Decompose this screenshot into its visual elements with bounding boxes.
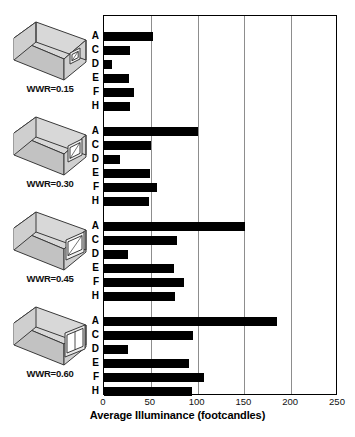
bar-WWR=0.60-F [104, 373, 204, 382]
cat-label-g3-D: D [92, 344, 99, 354]
bar-WWR=0.60-H [104, 387, 192, 396]
bar-row-WWR=0.60-F [104, 373, 338, 382]
cat-label-g0-D: D [92, 59, 99, 69]
bar-WWR=0.15-A [104, 32, 153, 41]
bar-row-WWR=0.45-C [104, 236, 338, 245]
cat-label-g2-C: C [92, 235, 99, 245]
bar-row-WWR=0.45-A [104, 222, 338, 231]
cat-label-g0-C: C [92, 45, 99, 55]
bar-row-WWR=0.30-E [104, 169, 338, 178]
bar-row-WWR=0.45-F [104, 278, 338, 287]
bar-WWR=0.30-H [104, 197, 149, 206]
x-tick-label-250: 250 [329, 396, 345, 407]
bar-WWR=0.30-F [104, 183, 157, 192]
cat-label-g3-C: C [92, 330, 99, 340]
cat-label-g3-A: A [92, 316, 99, 326]
x-tick-label-200: 200 [282, 396, 298, 407]
bar-WWR=0.15-H [104, 102, 130, 111]
category-axis-labels: A C D E F H A C D E F H A C D E F H A C … [78, 15, 101, 395]
bar-row-WWR=0.30-D [104, 155, 338, 164]
chart-figure: WWR=0.15 WWR=0.30 [0, 0, 355, 437]
bar-row-WWR=0.15-C [104, 46, 338, 55]
x-tick-label-150: 150 [235, 396, 251, 407]
bar-row-WWR=0.30-A [104, 127, 338, 136]
bar-row-WWR=0.30-F [104, 183, 338, 192]
cat-label-g0-F: F [93, 87, 99, 97]
bar-row-WWR=0.15-E [104, 74, 338, 83]
bar-WWR=0.45-F [104, 278, 184, 287]
bar-row-WWR=0.60-H [104, 387, 338, 396]
bar-row-WWR=0.30-C [104, 141, 338, 150]
cat-label-g1-F: F [93, 182, 99, 192]
cat-label-g1-H: H [92, 196, 99, 206]
bar-WWR=0.60-D [104, 345, 128, 354]
cat-label-g0-E: E [92, 73, 99, 83]
bar-row-WWR=0.45-D [104, 250, 338, 259]
bar-WWR=0.15-E [104, 74, 129, 83]
cat-label-g1-E: E [92, 168, 99, 178]
bar-row-WWR=0.60-D [104, 345, 338, 354]
bar-WWR=0.30-D [104, 155, 120, 164]
cat-label-g2-H: H [92, 291, 99, 301]
x-tick-label-0: 0 [100, 396, 105, 407]
bar-WWR=0.30-C [104, 141, 151, 150]
bar-WWR=0.45-D [104, 250, 128, 259]
cat-label-g2-A: A [92, 221, 99, 231]
bar-row-WWR=0.15-H [104, 102, 338, 111]
bar-WWR=0.45-A [104, 222, 245, 231]
bar-row-WWR=0.60-E [104, 359, 338, 368]
bar-WWR=0.60-E [104, 359, 189, 368]
cat-label-g0-H: H [92, 101, 99, 111]
bar-row-WWR=0.15-F [104, 88, 338, 97]
bar-row-WWR=0.45-E [104, 264, 338, 273]
bar-WWR=0.15-D [104, 60, 112, 69]
bar-row-WWR=0.15-A [104, 32, 338, 41]
x-tick-label-50: 50 [145, 396, 156, 407]
plot-area [103, 15, 337, 395]
cat-label-g2-D: D [92, 249, 99, 259]
cat-label-g2-F: F [93, 277, 99, 287]
bar-row-WWR=0.45-H [104, 292, 338, 301]
cat-label-g3-E: E [92, 358, 99, 368]
cat-label-g3-H: H [92, 386, 99, 396]
bar-WWR=0.60-C [104, 331, 193, 340]
bar-row-WWR=0.60-C [104, 331, 338, 340]
x-axis-label: Average Illuminance (footcandles) [0, 409, 355, 421]
cat-label-g1-A: A [92, 126, 99, 136]
bar-row-WWR=0.60-A [104, 317, 338, 326]
bar-row-WWR=0.15-D [104, 60, 338, 69]
cat-label-g2-E: E [92, 263, 99, 273]
bar-WWR=0.45-H [104, 292, 175, 301]
bar-WWR=0.30-E [104, 169, 150, 178]
cat-label-g1-D: D [92, 154, 99, 164]
bar-WWR=0.60-A [104, 317, 277, 326]
cat-label-g3-F: F [93, 372, 99, 382]
bar-WWR=0.15-F [104, 88, 134, 97]
bar-WWR=0.15-C [104, 46, 130, 55]
bar-WWR=0.45-C [104, 236, 177, 245]
bar-WWR=0.30-A [104, 127, 198, 136]
cat-label-g0-A: A [92, 31, 99, 41]
x-axis-ticks: 050100150200250 [103, 396, 337, 410]
bar-row-WWR=0.30-H [104, 197, 338, 206]
x-tick-label-100: 100 [189, 396, 205, 407]
bar-WWR=0.45-E [104, 264, 174, 273]
cat-label-g1-C: C [92, 140, 99, 150]
